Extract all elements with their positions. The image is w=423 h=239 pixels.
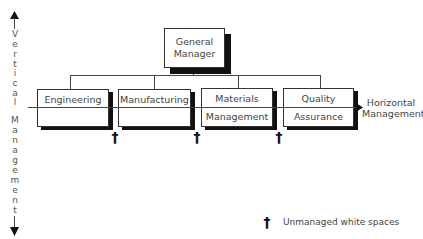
vertical-letter: e xyxy=(10,165,20,175)
vertical-letter: i xyxy=(10,68,20,78)
quality-label-line2: Assurance xyxy=(284,111,353,122)
vertical-letter: r xyxy=(10,49,20,59)
vertical-letter: M xyxy=(10,115,20,125)
vertical-letter: l xyxy=(10,97,20,107)
legend: † Unmanaged white spaces xyxy=(262,215,422,231)
engineering-label: Engineering xyxy=(38,94,108,105)
arrow-up-icon xyxy=(9,11,20,29)
general-manager-box: General Manager xyxy=(164,28,225,68)
vertical-letter: e xyxy=(10,39,20,49)
vertical-letter: t xyxy=(10,205,20,215)
vertical-letter: a xyxy=(10,125,20,135)
vertical-axis: V e r t i c a l M a n a g e m e n t xyxy=(0,0,30,239)
horizontal-label-line2: Management xyxy=(362,108,420,119)
manufacturing-connector xyxy=(154,75,155,89)
gm-label-line2: Manager xyxy=(165,48,224,59)
vertical-letter: m xyxy=(10,175,20,185)
dagger-icon: † xyxy=(110,130,120,144)
connector-horizontal xyxy=(70,75,321,76)
materials-label-line2: Management xyxy=(202,111,272,122)
vertical-letter: e xyxy=(10,185,20,195)
horizontal-label-line1: Horizontal xyxy=(362,97,420,108)
vertical-letter: n xyxy=(10,195,20,205)
manufacturing-label: Manufacturing xyxy=(119,94,190,105)
quality-connector xyxy=(320,75,321,89)
arrow-down-icon xyxy=(9,216,20,236)
materials-connector xyxy=(238,75,239,89)
engineering-box: Engineering xyxy=(37,89,109,127)
legend-dagger-icon: † xyxy=(262,215,272,229)
horizontal-axis-line xyxy=(28,107,358,108)
dagger-icon: † xyxy=(274,130,284,144)
quality-label-line1: Quality xyxy=(284,93,353,104)
materials-label-line1: Materials xyxy=(202,93,272,104)
vertical-letter: a xyxy=(10,145,20,155)
vertical-letter: n xyxy=(10,135,20,145)
gm-label-line1: General xyxy=(165,36,224,47)
engineering-connector xyxy=(70,75,71,89)
vertical-letter: V xyxy=(10,29,20,39)
vertical-letter: c xyxy=(10,78,20,88)
vertical-letter: g xyxy=(10,155,20,165)
manufacturing-box: Manufacturing xyxy=(118,89,191,127)
legend-text: Unmanaged white spaces xyxy=(283,217,399,228)
dagger-icon: † xyxy=(192,130,202,144)
